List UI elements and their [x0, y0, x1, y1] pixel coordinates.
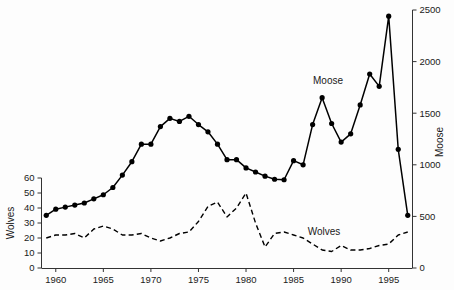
moose-data-point	[101, 192, 106, 197]
wolves-series-annotation: Wolves	[308, 226, 341, 237]
left-axis-ticks: 0102030405060	[24, 172, 42, 273]
left-tick-label: 50	[24, 187, 35, 198]
moose-data-point	[396, 147, 401, 152]
x-tick-label: 1985	[283, 274, 304, 285]
moose-data-point	[63, 205, 68, 210]
x-tick-label: 1975	[188, 274, 209, 285]
moose-data-point	[367, 71, 372, 76]
moose-series-annotation: Moose	[313, 75, 343, 86]
x-axis-ticks: 19601965197019751980198519901995	[45, 268, 399, 285]
moose-data-point	[196, 122, 201, 127]
moose-data-point	[53, 207, 58, 212]
moose-data-point	[310, 122, 315, 127]
right-tick-label: 500	[420, 211, 436, 222]
moose-data-point	[329, 121, 334, 126]
left-tick-label: 60	[24, 172, 35, 183]
chart-figure: 0102030405060 05001000150020002500 19601…	[0, 0, 454, 290]
moose-data-point	[339, 140, 344, 145]
left-tick-label: 30	[24, 217, 35, 228]
wolves-series-line	[46, 193, 407, 252]
moose-data-point	[167, 116, 172, 121]
moose-data-point	[301, 162, 306, 167]
right-tick-label: 2000	[420, 56, 441, 67]
moose-data-point	[72, 202, 77, 207]
x-tick-label: 1965	[93, 274, 114, 285]
moose-series-line	[46, 16, 407, 215]
moose-data-point	[186, 114, 191, 119]
moose-data-point	[44, 213, 49, 218]
x-tick-label: 1960	[45, 274, 66, 285]
moose-data-point	[110, 185, 115, 190]
moose-data-point	[91, 196, 96, 201]
moose-data-point	[320, 95, 325, 100]
moose-data-point	[82, 200, 87, 205]
moose-data-point	[120, 173, 125, 178]
moose-data-point	[129, 159, 134, 164]
moose-data-point	[205, 129, 210, 134]
moose-data-point	[262, 174, 267, 179]
moose-data-point	[234, 157, 239, 162]
right-axis-title: Moose	[434, 127, 445, 157]
x-tick-label: 1970	[140, 274, 161, 285]
x-tick-label: 1980	[235, 274, 256, 285]
left-tick-label: 40	[24, 202, 35, 213]
moose-data-point	[281, 177, 286, 182]
moose-data-point	[386, 14, 391, 19]
moose-data-point	[253, 169, 258, 174]
moose-data-point	[215, 142, 220, 147]
moose-data-points	[44, 14, 411, 218]
right-tick-label: 2500	[420, 4, 441, 15]
moose-data-point	[348, 131, 353, 136]
left-axis-title: Wolves	[5, 207, 16, 240]
moose-data-point	[272, 177, 277, 182]
moose-data-point	[224, 157, 229, 162]
left-tick-label: 10	[24, 247, 35, 258]
moose-data-point	[177, 119, 182, 124]
moose-data-point	[405, 213, 410, 218]
moose-data-point	[243, 165, 248, 170]
x-tick-label: 1990	[331, 274, 352, 285]
x-tick-label: 1995	[378, 274, 399, 285]
moose-data-point	[158, 124, 163, 129]
right-tick-label: 1000	[420, 159, 441, 170]
left-tick-label: 20	[24, 232, 35, 243]
right-tick-label: 1500	[420, 108, 441, 119]
moose-data-point	[358, 102, 363, 107]
moose-data-point	[377, 84, 382, 89]
right-tick-label: 0	[420, 262, 425, 273]
moose-data-point	[291, 158, 296, 163]
left-tick-label: 0	[29, 262, 34, 273]
moose-data-point	[148, 142, 153, 147]
moose-data-point	[139, 142, 144, 147]
wolves-moose-line-chart: 0102030405060 05001000150020002500 19601…	[0, 0, 454, 290]
